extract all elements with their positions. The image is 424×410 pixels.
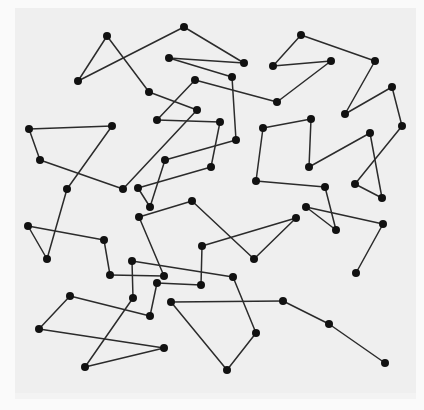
graph-node: [108, 122, 116, 130]
graph-edge: [132, 261, 133, 298]
graph-node: [197, 281, 205, 289]
graph-edge: [355, 184, 382, 198]
graph-node: [332, 226, 340, 234]
graph-edge: [184, 27, 244, 63]
graph-node: [232, 136, 240, 144]
graph-node: [378, 194, 386, 202]
graph-node: [240, 59, 248, 67]
graph-edge: [309, 119, 311, 167]
graph-edge: [171, 302, 227, 370]
graph-node: [351, 180, 359, 188]
graph-edge: [392, 87, 402, 126]
graph-edge: [78, 27, 184, 81]
graph-node: [379, 220, 387, 228]
graph-edges: [28, 27, 402, 370]
graph-node: [160, 344, 168, 352]
graph-edge: [157, 120, 220, 122]
graph-node: [381, 359, 389, 367]
graph-node: [165, 54, 173, 62]
graph-node: [36, 156, 44, 164]
graph-node: [193, 106, 201, 114]
graph-edge: [149, 92, 197, 110]
graph-edge: [256, 181, 325, 187]
graph-edge: [47, 189, 67, 259]
graph-node: [167, 298, 175, 306]
graph-node: [128, 257, 136, 265]
graph-node: [341, 110, 349, 118]
graph-edge: [29, 126, 112, 129]
graph-node: [24, 222, 32, 230]
graph-node: [252, 329, 260, 337]
graph-edge: [356, 224, 383, 273]
graph-edge: [139, 217, 164, 276]
graph-edge: [150, 283, 157, 316]
graph-node: [352, 269, 360, 277]
graph-node: [273, 98, 281, 106]
graph-node: [129, 294, 137, 302]
graph-node: [153, 116, 161, 124]
graph-edge: [132, 261, 233, 277]
graph-node: [66, 292, 74, 300]
graph-node: [153, 279, 161, 287]
graph-node: [388, 83, 396, 91]
graph-edge: [67, 126, 112, 189]
graph-node: [145, 88, 153, 96]
graph-node: [250, 255, 258, 263]
graph-edge: [110, 275, 164, 276]
graph-node: [106, 271, 114, 279]
graph-node: [366, 129, 374, 137]
graph-edge: [201, 246, 202, 285]
graph-node: [321, 183, 329, 191]
graph-node: [327, 57, 335, 65]
graph-edge: [309, 133, 370, 167]
graph-edge: [165, 140, 236, 160]
graph-edge: [39, 329, 164, 348]
graph-edge: [157, 283, 201, 285]
graph-node: [63, 185, 71, 193]
graph-edge: [28, 226, 47, 259]
graph-edge: [273, 35, 301, 66]
graph-edge: [233, 277, 256, 333]
graph-node: [305, 163, 313, 171]
graph-node: [371, 57, 379, 65]
graph-node: [229, 273, 237, 281]
graph-edge: [107, 36, 149, 92]
graph-node: [223, 366, 231, 374]
graph-edge: [329, 324, 385, 363]
graph-node: [228, 73, 236, 81]
graph-edge: [171, 301, 283, 302]
graph-node: [81, 363, 89, 371]
graph-edge: [256, 128, 263, 181]
graph-node: [25, 125, 33, 133]
graph-node: [74, 77, 82, 85]
graph-edge: [70, 296, 150, 316]
graph-node: [297, 31, 305, 39]
graph-node: [146, 312, 154, 320]
graph-node: [207, 163, 215, 171]
graph-node: [191, 76, 199, 84]
graph-node: [146, 203, 154, 211]
graph-edge: [40, 160, 123, 189]
graph-edge: [273, 61, 331, 66]
graph-node: [100, 236, 108, 244]
graph-edge: [169, 58, 244, 63]
graph-edge: [29, 129, 40, 160]
graph-node: [103, 32, 111, 40]
graph-node: [135, 213, 143, 221]
graph-edge: [39, 296, 70, 329]
graph-edge: [277, 61, 331, 102]
graph-edge: [232, 77, 236, 140]
graph-edge: [157, 80, 195, 120]
graph-node: [307, 115, 315, 123]
graph-edge: [263, 119, 311, 128]
graph-edge: [227, 333, 256, 370]
graph-node: [216, 118, 224, 126]
graph-node: [252, 177, 260, 185]
graph-node: [119, 185, 127, 193]
graph-node: [188, 197, 196, 205]
graph-node: [259, 124, 267, 132]
graph-edge: [195, 80, 277, 102]
graph-node: [43, 255, 51, 263]
graph-node: [398, 122, 406, 130]
graph-node: [292, 214, 300, 222]
